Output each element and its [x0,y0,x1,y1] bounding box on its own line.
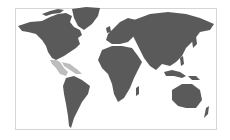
africa [98,46,142,102]
australia [172,84,202,108]
north-america [18,13,82,60]
uk [106,26,111,33]
world-map [0,0,230,140]
indonesia [164,70,186,78]
land-masses [18,7,214,128]
new-guinea [188,76,200,80]
new-zealand [204,106,209,118]
greenland [72,7,100,30]
asia [132,12,214,70]
south-america [63,76,90,128]
madagascar [136,86,139,96]
highlighted-regions [50,60,82,76]
philippines [180,56,184,66]
central-america [50,60,68,76]
